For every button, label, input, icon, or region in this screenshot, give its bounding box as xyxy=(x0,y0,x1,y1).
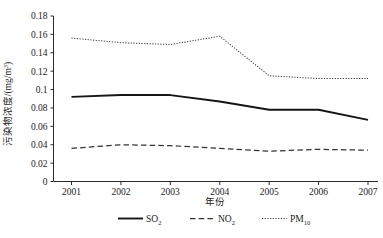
x-axis-ticks xyxy=(72,182,369,186)
x-tick-label: 2006 xyxy=(309,187,328,197)
x-axis-tick-labels: 2001200220032004200520062007 xyxy=(62,187,378,197)
x-axis-title: 年份 xyxy=(205,196,225,207)
y-tick-label: 0.1 xyxy=(36,85,48,95)
x-tick-label: 2005 xyxy=(260,187,279,197)
legend-item-no2[interactable]: NO2 xyxy=(190,214,235,226)
x-tick-label: 2001 xyxy=(62,187,81,197)
x-axis: 2001200220032004200520062007 xyxy=(54,182,379,197)
y-axis-tick-labels: 00.020.040.060.080.10.120.140.160.18 xyxy=(31,11,48,187)
y-tick-label: 0.14 xyxy=(31,48,48,58)
y-tick-label: 0.04 xyxy=(31,140,48,150)
legend-label-pm10: PM10 xyxy=(290,214,310,226)
y-tick-label: 0.08 xyxy=(31,103,48,113)
y-tick-label: 0.12 xyxy=(31,67,48,77)
legend-item-so2[interactable]: SO2 xyxy=(118,214,161,226)
data-series-layer xyxy=(72,36,369,151)
x-tick-label: 2007 xyxy=(359,187,378,197)
chart-legend: SO2NO2PM10 xyxy=(118,214,310,226)
legend-label-so2: SO2 xyxy=(146,214,161,226)
y-tick-label: 0.18 xyxy=(31,11,48,21)
y-axis-title-group: 污染物浓度/(mg/m3) xyxy=(2,62,14,146)
y-tick-label: 0.16 xyxy=(31,30,48,40)
pollutant-concentration-line-chart: 00.020.040.060.080.10.120.140.160.18 200… xyxy=(0,0,383,238)
legend-label-no2: NO2 xyxy=(218,214,235,226)
x-tick-label: 2004 xyxy=(210,187,229,197)
y-axis: 00.020.040.060.080.10.120.140.160.18 xyxy=(31,11,54,187)
y-axis-title: 污染物浓度/(mg/m3) xyxy=(2,62,14,146)
y-tick-label: 0 xyxy=(43,177,48,187)
y-tick-label: 0.02 xyxy=(31,159,48,169)
x-tick-label: 2002 xyxy=(111,187,130,197)
chart-container: 00.020.040.060.080.10.120.140.160.18 200… xyxy=(0,0,383,238)
series-line-pm10 xyxy=(72,36,369,78)
y-tick-label: 0.06 xyxy=(31,122,48,132)
legend-item-pm10[interactable]: PM10 xyxy=(262,214,310,226)
series-line-so2 xyxy=(72,95,369,120)
series-line-no2 xyxy=(72,145,369,151)
x-tick-label: 2003 xyxy=(161,187,180,197)
